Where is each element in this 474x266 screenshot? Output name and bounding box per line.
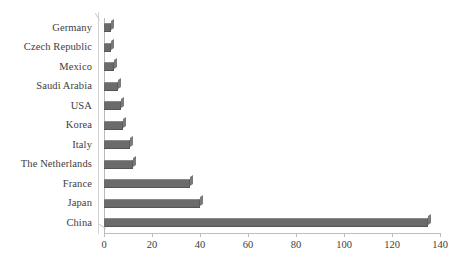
bar-depth-cap (190, 175, 193, 186)
bar (104, 82, 118, 91)
value-axis: 020406080100120140 (104, 233, 444, 263)
category-label: Saudi Arabia (36, 79, 92, 93)
value-tick-mark (440, 233, 441, 237)
bar-depth-cap (200, 195, 203, 206)
bar-row (104, 18, 444, 38)
bar-depth-cap (121, 97, 124, 108)
value-tick-mark (200, 233, 201, 237)
bar-row (104, 38, 444, 58)
category-axis: GermanyCzech RepublicMexicoSaudi ArabiaU… (0, 18, 96, 233)
value-tick-label: 100 (324, 239, 364, 250)
bar-row (104, 194, 444, 214)
bar-depth-cap (111, 19, 114, 30)
value-tick-mark (392, 233, 393, 237)
bar (104, 140, 130, 149)
value-tick-mark (344, 233, 345, 237)
category-label: Czech Republic (24, 40, 92, 54)
category-label: Mexico (59, 60, 92, 74)
bar (104, 62, 114, 71)
bar-row (104, 57, 444, 77)
value-tick-label: 80 (276, 239, 316, 250)
category-label: Germany (52, 21, 92, 35)
value-tick-mark (104, 233, 105, 237)
value-tick-mark (248, 233, 249, 237)
bar (104, 121, 123, 130)
bar-row (104, 135, 444, 155)
category-label: France (63, 177, 92, 191)
category-label: Korea (66, 118, 92, 132)
value-tick-label: 40 (180, 239, 220, 250)
category-label: The Netherlands (21, 157, 92, 171)
axis-depth-line (98, 12, 99, 234)
bar-depth-cap (123, 117, 126, 128)
bar-depth-cap (111, 39, 114, 50)
value-tick-label: 120 (372, 239, 412, 250)
value-tick-label: 140 (420, 239, 460, 250)
category-label: USA (71, 99, 92, 113)
plot-area (104, 18, 444, 233)
value-tick-label: 60 (228, 239, 268, 250)
value-tick-label: 0 (84, 239, 124, 250)
bar-row (104, 174, 444, 194)
bar-row (104, 116, 444, 136)
bar-depth-cap (114, 58, 117, 69)
bar-depth-cap (428, 214, 431, 225)
value-axis-baseline (104, 233, 441, 234)
bar-row (104, 77, 444, 97)
bar (104, 218, 428, 227)
value-tick-mark (296, 233, 297, 237)
category-label: Japan (68, 196, 92, 210)
category-label: Italy (72, 138, 92, 152)
bar-depth-cap (130, 136, 133, 147)
bar-chart: GermanyCzech RepublicMexicoSaudi ArabiaU… (0, 0, 474, 266)
bar (104, 101, 121, 110)
value-tick-label: 20 (132, 239, 172, 250)
bar-row (104, 155, 444, 175)
value-tick-mark (152, 233, 153, 237)
bar (104, 179, 190, 188)
category-label: China (66, 216, 92, 230)
bar (104, 199, 200, 208)
bar-depth-cap (118, 78, 121, 89)
bar-row (104, 96, 444, 116)
bar (104, 160, 133, 169)
bar-depth-cap (133, 156, 136, 167)
bar-row (104, 213, 444, 233)
